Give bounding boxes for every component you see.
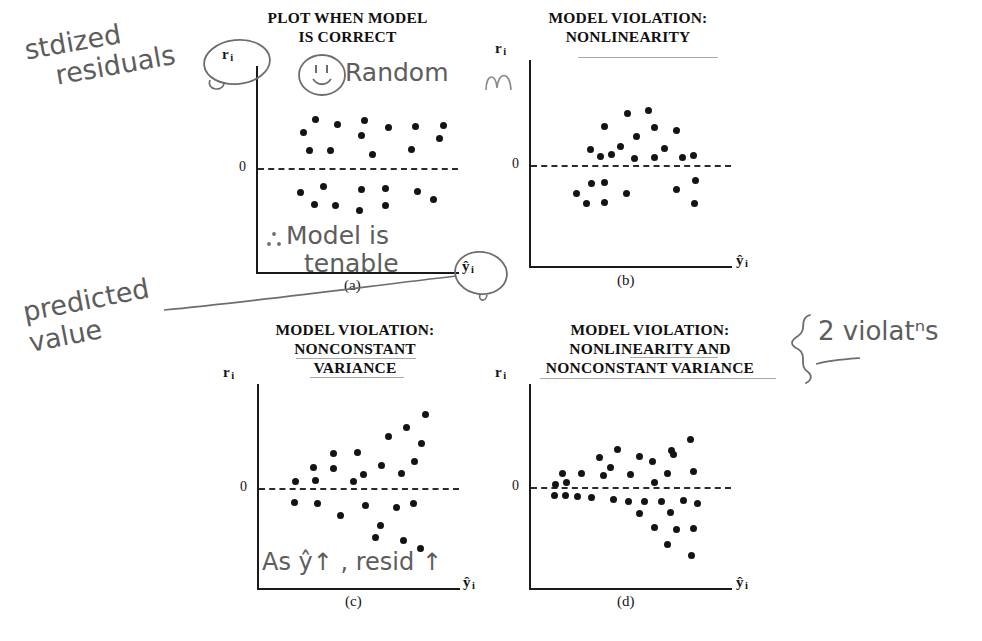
panel-c-x-axis-label: ŷi (463, 574, 475, 591)
data-point (337, 512, 344, 519)
data-point (310, 464, 317, 471)
data-point (601, 199, 608, 206)
data-point (372, 534, 379, 541)
panel-c-y-axis (257, 384, 259, 590)
data-point (679, 154, 686, 161)
data-point (334, 121, 341, 128)
data-point (360, 471, 367, 478)
panel-b-y-axis-subscript: i (502, 46, 506, 57)
data-point (361, 117, 368, 124)
data-point (651, 124, 658, 131)
panel-c-zero-label: 0 (240, 479, 247, 495)
data-point (393, 504, 400, 511)
data-point (601, 179, 608, 186)
panel-b-y-axis-letter: r (495, 40, 502, 56)
data-point (627, 471, 634, 478)
panel-d-title: MODEL VIOLATION: NONLINEARITY AND NONCON… (520, 320, 780, 377)
data-point (673, 186, 680, 193)
annotation-stdized-residuals: stdized residuals (22, 8, 178, 97)
data-point (563, 479, 570, 486)
data-point (312, 477, 319, 484)
data-point (414, 188, 421, 195)
data-point (664, 541, 671, 548)
panel-a-zero-line (258, 168, 458, 170)
data-point (588, 180, 595, 187)
data-point (587, 146, 594, 153)
figure-canvas: PLOT WHEN MODEL IS CORRECT 0 ri ŷi (a) (0, 0, 982, 641)
data-point (597, 153, 604, 160)
data-point (670, 451, 677, 458)
data-point (400, 537, 407, 544)
data-point (631, 155, 638, 162)
panel-a-title: PLOT WHEN MODEL IS CORRECT (250, 8, 445, 46)
panel-d-x-axis-label: ŷi (736, 574, 748, 591)
data-point (314, 500, 321, 507)
data-point (358, 186, 365, 193)
panel-b-y-axis-label: ri (495, 40, 506, 57)
data-point (403, 424, 410, 431)
data-point (385, 124, 392, 131)
data-point (300, 129, 307, 136)
data-point (422, 411, 429, 418)
data-point (398, 470, 405, 477)
panel-b-y-axis (529, 60, 531, 268)
data-point (667, 509, 674, 516)
panel-d-x-axis (529, 588, 732, 590)
panel-b-caption: (b) (617, 272, 635, 289)
data-point (610, 496, 617, 503)
panel-c-y-axis-letter: r (223, 364, 230, 380)
data-point (651, 479, 658, 486)
panel-c-title-underline-1 (296, 358, 416, 359)
panel-b-x-axis (529, 266, 732, 268)
panel-c-x-axis-letter: ŷ (463, 574, 471, 590)
data-point (651, 154, 658, 161)
data-point (412, 123, 419, 130)
data-point (661, 145, 668, 152)
data-point (378, 462, 385, 469)
data-point (410, 500, 417, 507)
data-point (356, 207, 363, 214)
data-point (636, 510, 643, 517)
annotation-circle-ri (200, 36, 276, 96)
panel-c-x-axis-subscript: i (471, 580, 475, 591)
data-point (664, 470, 671, 477)
data-point (641, 498, 648, 505)
panel-d-zero-label: 0 (512, 478, 519, 494)
data-point (551, 492, 558, 499)
data-point (607, 464, 614, 471)
data-point (645, 107, 652, 114)
data-point (588, 494, 595, 501)
annotation-squiggle (484, 66, 524, 92)
panel-b-x-axis-subscript: i (744, 258, 748, 269)
panel-c-y-axis-label: ri (223, 364, 234, 381)
panel-d-x-axis-letter: ŷ (736, 574, 744, 590)
panel-d-caption: (d) (617, 593, 635, 610)
data-point (690, 152, 697, 159)
annotation-random: Random (345, 58, 449, 87)
data-point (636, 453, 643, 460)
data-point (350, 478, 357, 485)
data-point (306, 147, 313, 154)
data-point (436, 135, 443, 142)
data-point (382, 202, 389, 209)
data-point (418, 440, 425, 447)
data-point (411, 458, 418, 465)
data-point (291, 499, 298, 506)
data-point (559, 470, 566, 477)
data-point (385, 433, 392, 440)
data-point (574, 493, 581, 500)
data-point (691, 200, 698, 207)
data-point (601, 123, 608, 130)
annotation-as-yhat-resid: As ŷ↑ , resid ↑ (262, 548, 442, 576)
data-point (382, 185, 389, 192)
data-point (292, 478, 299, 485)
data-point (354, 449, 361, 456)
panel-d-title-underline-2 (540, 378, 776, 379)
data-point (623, 190, 630, 197)
annotation-predicted-value: predicted value (20, 272, 158, 360)
data-point (692, 177, 699, 184)
data-point (680, 497, 687, 504)
data-point (625, 498, 632, 505)
data-point (687, 436, 694, 443)
data-point (583, 200, 590, 207)
